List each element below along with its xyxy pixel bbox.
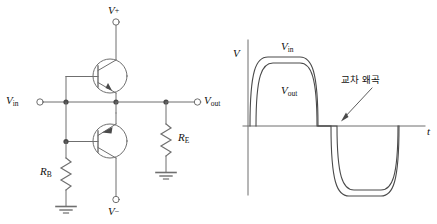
label-v-out: Vout xyxy=(204,95,220,108)
series-label-v-in: Vin xyxy=(281,41,294,54)
annotation-crossover-distortion: 교차 왜곡 xyxy=(341,72,380,86)
q1-emitter-arrow xyxy=(106,83,113,91)
figure-canvas xyxy=(0,0,437,224)
ground-left xyxy=(56,207,76,214)
q2-emitter-arrow xyxy=(102,127,113,134)
series-label-v-out: Vout xyxy=(281,85,297,98)
q2-emitter-lead xyxy=(98,124,116,136)
terminal-v-in xyxy=(37,99,43,105)
resistor-rb-zigzag xyxy=(61,158,71,190)
terminal-v-minus xyxy=(113,196,119,202)
chart-x-axis-label: t xyxy=(427,126,430,137)
circuit-diagram xyxy=(37,19,201,213)
terminal-v-plus xyxy=(113,19,119,25)
q2-collector-lead xyxy=(98,148,116,159)
label-v-in: Vin xyxy=(6,95,19,108)
resistor-re-zigzag xyxy=(161,124,171,156)
waveform-chart xyxy=(243,40,425,196)
label-v-minus: V− xyxy=(108,206,119,217)
label-r-b: RB xyxy=(40,166,52,179)
figure-root: V+ V− Vin Vout RB RE V t Vin Vout 교차 왜곡 xyxy=(0,0,437,224)
annotation-arrow-line xyxy=(344,88,372,118)
chart-y-axis-label: V xyxy=(233,48,240,59)
terminal-v-out xyxy=(194,99,200,105)
label-r-e: RE xyxy=(178,132,189,145)
label-v-plus: V+ xyxy=(108,5,119,16)
ground-right xyxy=(156,173,176,180)
